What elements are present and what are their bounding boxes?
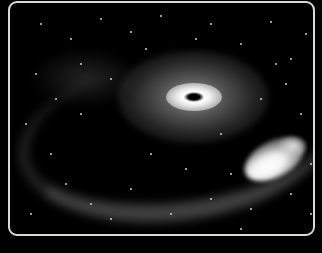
- star: [50, 153, 52, 155]
- star: [30, 213, 32, 215]
- star: [305, 33, 307, 35]
- star: [110, 218, 112, 220]
- star: [250, 208, 252, 210]
- star: [100, 18, 102, 20]
- star: [150, 153, 152, 155]
- star: [80, 63, 82, 65]
- star: [55, 98, 57, 100]
- star: [160, 15, 162, 17]
- star: [130, 31, 132, 33]
- star: [145, 48, 147, 50]
- star: [210, 23, 212, 25]
- star: [80, 113, 82, 115]
- star: [270, 21, 272, 23]
- star: [130, 188, 132, 190]
- star: [90, 203, 92, 205]
- star: [220, 133, 222, 135]
- companion-knot: [278, 135, 308, 157]
- star: [110, 78, 112, 80]
- star: [240, 228, 242, 230]
- star: [240, 43, 242, 45]
- star: [35, 73, 37, 75]
- star: [285, 83, 287, 85]
- star: [185, 168, 187, 170]
- star: [300, 113, 302, 115]
- galaxy-core: [166, 83, 222, 111]
- star: [195, 38, 197, 40]
- star: [290, 58, 292, 60]
- star: [40, 23, 42, 25]
- star: [290, 193, 292, 195]
- star: [260, 98, 262, 100]
- star: [170, 213, 172, 215]
- star: [275, 63, 277, 65]
- star: [230, 173, 232, 175]
- star: [65, 183, 67, 185]
- star: [25, 123, 27, 125]
- star: [70, 38, 72, 40]
- star: [310, 163, 312, 165]
- image-frame: [8, 1, 315, 236]
- star: [210, 198, 212, 200]
- star: [310, 213, 312, 215]
